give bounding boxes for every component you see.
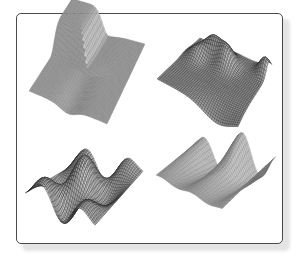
surface-plot-oscillating bbox=[25, 149, 143, 225]
surface-plot-sine-waves bbox=[156, 132, 276, 208]
surface-plots bbox=[0, 0, 303, 261]
surface-plot-peaks bbox=[157, 35, 272, 127]
surface-plot-saddle bbox=[29, 0, 145, 124]
figure-stage bbox=[0, 0, 303, 261]
